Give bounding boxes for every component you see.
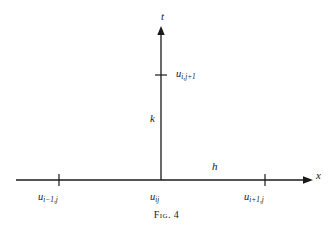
node-subscript: i,j+1 [181, 72, 196, 81]
node-subscript: i+1,j [249, 195, 264, 204]
node-label-u-ij: uij [150, 192, 159, 203]
node-label-u-i-plus-1-j: ui+1,j [244, 192, 264, 203]
node-subscript: i−1,j [43, 195, 58, 204]
t-axis-label: t [161, 11, 164, 22]
node-subscript: ij [155, 195, 159, 204]
vertical-step-label-k: k [150, 113, 155, 124]
horizontal-step-label-h: h [212, 161, 218, 172]
figure-container: t x k h ui,j+1 ui−1,j uij ui+1,j Fig. 4 [0, 0, 333, 233]
node-label-u-i-minus-1-j: ui−1,j [38, 192, 58, 203]
right-arrow-icon [303, 176, 313, 183]
x-axis-label: x [316, 170, 321, 181]
node-label-u-i-j-plus-1: ui,j+1 [176, 69, 196, 80]
up-arrow-icon [157, 26, 164, 35]
figure-caption: Fig. 4 [0, 209, 333, 220]
